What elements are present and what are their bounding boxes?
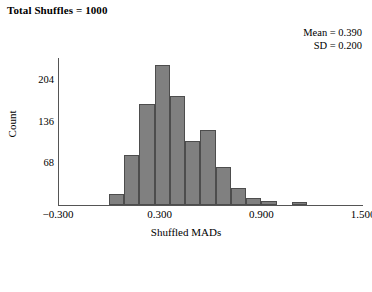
histogram-bar — [155, 65, 170, 205]
y-tick-label: 68 — [4, 158, 54, 168]
shuffle-histogram-panel: Total Shuffles = 1000 Mean = 0.390 SD = … — [0, 0, 372, 292]
x-axis-title: Shuffled MADs — [0, 226, 372, 238]
y-axis-line — [58, 58, 59, 206]
x-tick-label: −0.300 — [23, 208, 93, 221]
y-tick-label: 204 — [4, 75, 54, 85]
y-axis-title: Count — [6, 94, 18, 154]
histogram-bar — [109, 194, 124, 205]
count-samples-controls: Count Samples Greater Than 1.16 Count Co… — [0, 246, 372, 292]
histogram-bar — [200, 130, 215, 205]
x-tick-label: 0.900 — [226, 208, 296, 221]
histogram-bar — [170, 96, 185, 205]
histogram-bar — [185, 141, 200, 205]
histogram-bar — [139, 104, 154, 205]
histogram-bar — [246, 198, 261, 205]
x-tick-label: 0.300 — [125, 208, 195, 221]
x-axis-line — [58, 205, 363, 206]
x-tick-label: 1.500 — [328, 208, 372, 221]
histogram-bar — [216, 167, 231, 205]
histogram-bar — [124, 155, 139, 205]
histogram-bar — [231, 188, 246, 205]
histogram-bars — [0, 0, 372, 206]
histogram-plot: 68136204 −0.3000.3000.9001.500 Count Shu… — [0, 0, 372, 240]
